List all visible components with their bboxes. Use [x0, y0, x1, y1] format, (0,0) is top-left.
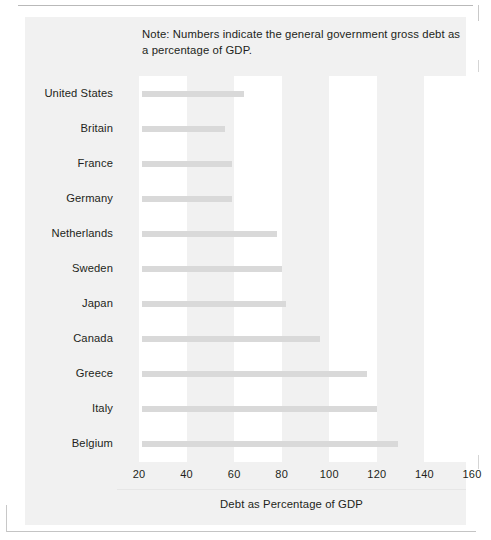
- bar: [142, 441, 398, 447]
- bar-row: [117, 427, 466, 462]
- bar: [142, 301, 286, 307]
- bar-row: [117, 251, 466, 286]
- chart-note: Note: Numbers indicate the general gover…: [142, 26, 467, 58]
- bar-row: [117, 357, 466, 392]
- x-axis-tick-label: 120: [367, 468, 386, 480]
- x-axis-tick-label: 140: [415, 468, 434, 480]
- bar-row: [117, 76, 466, 111]
- x-axis-tick-label: 80: [275, 468, 288, 480]
- category-label: Greece: [76, 367, 113, 379]
- bar: [142, 336, 320, 342]
- bar: [142, 91, 244, 97]
- top-divider: [18, 5, 473, 6]
- bar-row: [117, 392, 466, 427]
- bar-row: [117, 287, 466, 322]
- bar-row: [117, 146, 466, 181]
- bar: [142, 406, 377, 412]
- category-label: Britain: [81, 122, 114, 134]
- category-label: Netherlands: [51, 227, 113, 239]
- x-axis-tick-label: 20: [133, 468, 146, 480]
- category-label: Japan: [82, 297, 113, 309]
- category-label: Canada: [73, 332, 113, 344]
- right-edge-mark-lower: [478, 455, 479, 469]
- bar-row: [117, 181, 466, 216]
- bar: [142, 266, 282, 272]
- category-label: Sweden: [72, 262, 113, 274]
- bar: [142, 371, 367, 377]
- category-label-column: United StatesBritainFranceGermanyNetherl…: [25, 76, 113, 462]
- category-label: United States: [44, 87, 113, 99]
- x-axis-tick-label: 160: [462, 468, 481, 480]
- bar-row: [117, 216, 466, 251]
- category-label: Italy: [92, 402, 113, 414]
- plot-area: [117, 76, 466, 462]
- category-label: Belgium: [72, 437, 113, 449]
- bar: [142, 196, 232, 202]
- left-edge-mark: [6, 505, 7, 532]
- bottom-divider: [6, 531, 476, 532]
- right-edge-mark-middle: [478, 60, 479, 72]
- category-label: France: [78, 157, 114, 169]
- bar: [142, 126, 225, 132]
- chart-figure: Note: Numbers indicate the general gover…: [25, 17, 466, 525]
- bar-row: [117, 111, 466, 146]
- x-axis-title: Debt as Percentage of GDP: [117, 498, 466, 510]
- x-axis-tick-label: 40: [180, 468, 193, 480]
- x-axis-tick-label: 100: [320, 468, 339, 480]
- x-axis-tick-label: 60: [228, 468, 241, 480]
- bar: [142, 161, 232, 167]
- bar: [142, 231, 277, 237]
- right-edge-mark-top: [478, 5, 479, 21]
- x-axis-line: [117, 489, 466, 490]
- category-label: Germany: [66, 192, 113, 204]
- bar-row: [117, 322, 466, 357]
